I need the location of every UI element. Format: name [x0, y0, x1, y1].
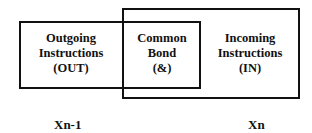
- outgoing-text: Outgoing Instructions (OUT): [19, 31, 123, 76]
- left-label: Xn-1: [54, 117, 81, 133]
- common-line3: (&): [124, 61, 200, 76]
- incoming-line2: Instructions: [201, 46, 299, 61]
- incoming-line3: (IN): [201, 61, 299, 76]
- common-bond-text: Common Bond (&): [124, 31, 200, 76]
- incoming-text: Incoming Instructions (IN): [201, 31, 299, 76]
- right-label: Xn: [248, 117, 265, 133]
- outgoing-line3: (OUT): [19, 61, 123, 76]
- common-line2: Bond: [124, 46, 200, 61]
- incoming-line1: Incoming: [201, 31, 299, 46]
- outgoing-line1: Outgoing: [19, 31, 123, 46]
- common-line1: Common: [124, 31, 200, 46]
- outgoing-line2: Instructions: [19, 46, 123, 61]
